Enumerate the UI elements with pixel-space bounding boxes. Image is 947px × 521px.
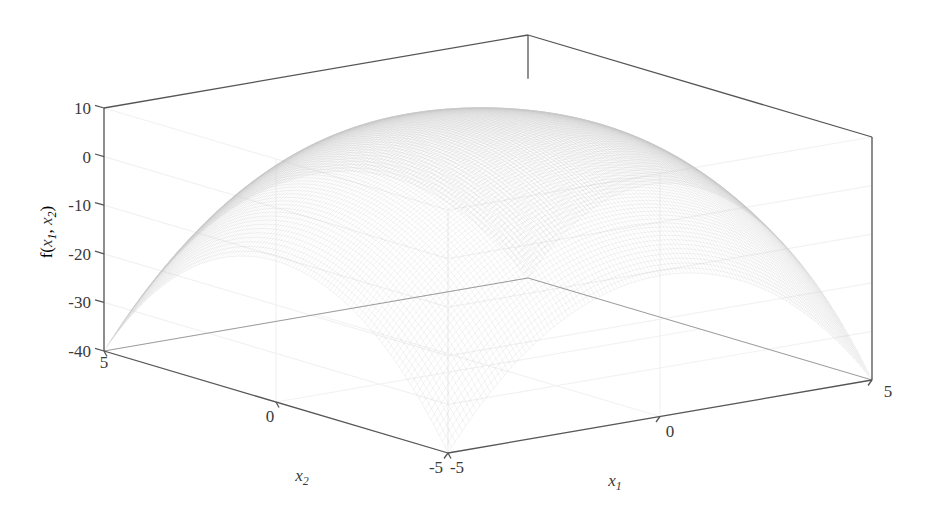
surface-mesh bbox=[104, 108, 872, 453]
tick-label: 5 bbox=[884, 382, 893, 401]
axis-titles: x1 x2 f(x1, x2) bbox=[37, 206, 622, 493]
tick-label: 10 bbox=[74, 99, 91, 118]
svg-text:f(x1, x2): f(x1, x2) bbox=[37, 206, 59, 259]
x2-axis-label: x2 bbox=[294, 466, 309, 488]
x1-axis-label: x1 bbox=[607, 471, 622, 493]
tick-labels: -40-30-20-1001050-5-505 bbox=[68, 99, 892, 477]
tick-label: -20 bbox=[68, 245, 91, 264]
figure-canvas: -40-30-20-1001050-5-505 x1 x2 f(x1, x2) bbox=[0, 0, 947, 521]
tick-label: 0 bbox=[266, 407, 275, 426]
tick-label: 5 bbox=[100, 353, 109, 372]
tick-label: -5 bbox=[450, 458, 464, 477]
tick-label: -5 bbox=[429, 458, 443, 477]
axis-frame bbox=[104, 35, 872, 453]
z-axis-label: f(x1, x2) bbox=[37, 206, 59, 259]
tick-label: 0 bbox=[666, 422, 675, 441]
surface-plot-3d: -40-30-20-1001050-5-505 x1 x2 f(x1, x2) bbox=[0, 0, 947, 521]
tick-label: -30 bbox=[68, 293, 91, 312]
tick-label: -10 bbox=[68, 196, 91, 215]
tick-label: 0 bbox=[83, 148, 92, 167]
tick-label: -40 bbox=[68, 342, 91, 361]
